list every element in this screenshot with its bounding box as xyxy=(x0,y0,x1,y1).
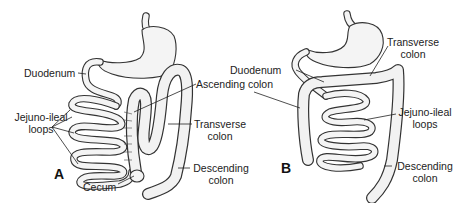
label-duodenum-b: Duodenum xyxy=(230,64,281,76)
label-descending-colon-b: colon xyxy=(392,172,458,184)
panel-letter-b: B xyxy=(281,160,291,176)
label-ascending-colon: Ascending colon xyxy=(196,78,273,90)
label-jejuno-ileal-loops-a: loops xyxy=(12,123,70,135)
panel-letter-a: A xyxy=(54,166,64,182)
label-descending-a: Descending xyxy=(188,162,254,174)
cecum-a xyxy=(130,170,144,182)
label-jejuno-ileal-loops-b: loops xyxy=(394,118,456,130)
label-cecum-a: Cecum xyxy=(83,181,116,193)
panel-b-drawing xyxy=(254,14,399,198)
panel-a-drawing xyxy=(52,16,196,194)
label-jejuno-ileal-b: Jejuno-ileal xyxy=(394,106,456,118)
label-transverse-colon-b: colon xyxy=(383,48,443,60)
stomach-b xyxy=(306,23,383,68)
label-transverse-a: Transverse xyxy=(190,118,250,130)
label-duodenum-a: Duodenum xyxy=(24,67,75,79)
label-transverse-b: Transverse xyxy=(383,36,443,48)
label-descending-colon-a: colon xyxy=(188,174,254,186)
label-jejuno-ileal-a: Jejuno-ileal xyxy=(12,111,70,123)
label-descending-b: Descending xyxy=(392,160,458,172)
label-transverse-colon-a: colon xyxy=(190,130,250,142)
